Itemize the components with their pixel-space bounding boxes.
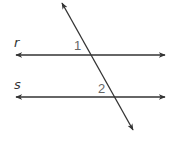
line-s-label: s: [14, 77, 21, 92]
angle-2-label: 2: [98, 81, 105, 96]
line-r-label: r: [14, 35, 21, 50]
transversal-line: [62, 3, 133, 130]
parallel-lines-transversal-diagram: r s 1 2: [0, 0, 184, 145]
angle-1-label: 1: [74, 38, 81, 53]
